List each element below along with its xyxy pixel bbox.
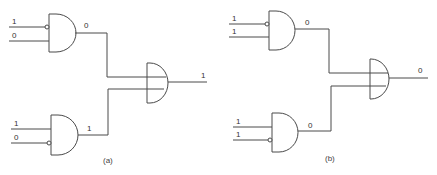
logic-circuit-diagram: 1 0 0 1 0 1 1 (a) (0, 0, 437, 175)
circuit-b-top-input-1-label: 1 (232, 14, 237, 23)
and-gate-icon (49, 14, 76, 52)
and-gate-icon (272, 113, 298, 152)
inverter-bubble-icon (45, 25, 49, 29)
circuit-b-final-gate: 0 (370, 59, 428, 99)
circuit-b-bottom-and-gate: 1 1 0 (233, 86, 384, 152)
inverter-bubble-icon (268, 138, 272, 142)
circuit-b-top-and-gate: 1 1 0 (229, 11, 384, 73)
circuit-a-bottom-and-gate: 1 0 1 (11, 89, 160, 155)
circuit-a-final-gate: 1 (147, 63, 207, 103)
and-gate-icon (370, 59, 389, 99)
circuit-b-bottom-input-1-label: 1 (236, 117, 241, 126)
circuit-a-caption: (a) (103, 156, 113, 165)
circuit-a-bottom-input-2-label: 0 (14, 133, 19, 142)
inverter-bubble-icon (47, 141, 51, 145)
and-gate-icon (147, 63, 168, 103)
circuit-a-top-input-2-label: 0 (12, 31, 17, 40)
circuit-b-top-output-label: 0 (305, 18, 310, 27)
circuit-a-bottom-output-label: 1 (87, 124, 92, 133)
and-gate-icon (269, 11, 295, 50)
inverter-bubble-icon (265, 22, 269, 26)
circuit-b-final-output-label: 0 (418, 66, 423, 75)
and-gate-icon (51, 115, 78, 155)
circuit-a: 1 0 0 1 0 1 1 (a) (9, 14, 207, 165)
circuit-a-top-output-label: 0 (84, 21, 89, 30)
circuit-a-top-and-gate: 1 0 0 (9, 14, 160, 77)
circuit-a-bottom-input-1-label: 1 (14, 119, 19, 128)
circuit-b-bottom-output-label: 0 (308, 121, 313, 130)
circuit-b-bottom-input-2-label: 1 (236, 130, 241, 139)
circuit-a-top-input-1-label: 1 (12, 17, 17, 26)
circuit-b-caption: (b) (325, 154, 335, 163)
circuit-a-final-output-label: 1 (201, 71, 206, 80)
circuit-b-top-input-2-label: 1 (232, 27, 237, 36)
circuit-b: 1 1 0 1 1 0 0 (b) (229, 11, 428, 163)
